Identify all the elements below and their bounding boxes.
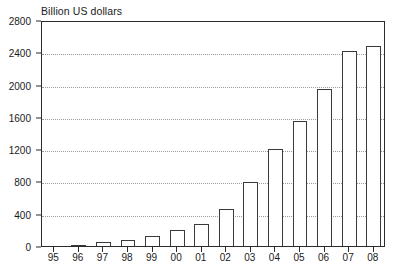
y-tick-label: 1600	[9, 112, 31, 123]
bar	[317, 89, 332, 246]
x-tick-label: 97	[97, 252, 108, 263]
x-tick-label: 99	[146, 252, 157, 263]
bar	[268, 149, 283, 246]
bar	[121, 240, 136, 246]
chart-title: Billion US dollars	[41, 5, 122, 17]
plot-area	[41, 21, 385, 247]
y-tick-label: 800	[14, 177, 31, 188]
y-tick-label: 0	[25, 242, 31, 253]
x-tick-label: 05	[293, 252, 304, 263]
x-axis-labels: 9596979899000102030405060708	[41, 252, 385, 270]
bar	[293, 121, 308, 246]
bar	[145, 236, 160, 246]
x-tick-label: 00	[171, 252, 182, 263]
x-tick-label: 03	[244, 252, 255, 263]
y-tick-label: 2400	[9, 48, 31, 59]
bar	[96, 242, 111, 246]
bar	[170, 230, 185, 246]
x-tick-label: 95	[48, 252, 59, 263]
y-tick-label: 400	[14, 209, 31, 220]
x-tick-label: 07	[343, 252, 354, 263]
x-tick-label: 96	[72, 252, 83, 263]
bar	[71, 245, 86, 247]
x-tick-label: 06	[318, 252, 329, 263]
y-tick-label: 2000	[9, 80, 31, 91]
bar	[243, 182, 258, 246]
y-axis-labels: 040080012001600200024002800	[0, 21, 36, 247]
x-tick-label: 98	[121, 252, 132, 263]
y-tick-label: 2800	[9, 16, 31, 27]
bar	[194, 224, 209, 246]
bar-chart-figure: Billion US dollars 040080012001600200024…	[0, 0, 393, 277]
bar	[219, 209, 234, 246]
x-tick-label: 04	[269, 252, 280, 263]
y-tick-label: 1200	[9, 145, 31, 156]
bar-series	[42, 22, 384, 246]
bar	[342, 51, 357, 246]
x-tick-label: 02	[220, 252, 231, 263]
bar	[366, 46, 381, 246]
x-tick-label: 01	[195, 252, 206, 263]
x-tick-label: 08	[367, 252, 378, 263]
